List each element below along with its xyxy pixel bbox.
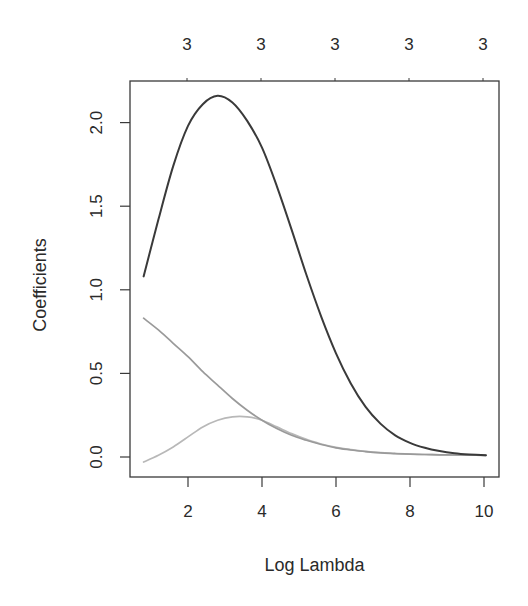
x-tick-label: 4 (257, 502, 266, 521)
x-axis-title: Log Lambda (264, 555, 365, 575)
y-axis-title: Coefficients (30, 238, 50, 332)
x-tick-label: 2 (183, 502, 192, 521)
top-tick-label: 3 (330, 35, 339, 54)
top-tick-label: 3 (182, 35, 191, 54)
top-tick-label: 3 (404, 35, 413, 54)
y-tick-label: 0.0 (87, 445, 106, 469)
coefficient-path-chart: 33333 246810 0.00.51.01.52.0 Log Lambda … (0, 0, 528, 606)
x-tick-label: 10 (475, 502, 494, 521)
y-tick-label: 1.0 (87, 278, 106, 302)
x-tick-label: 8 (405, 502, 414, 521)
y-tick-label: 1.5 (87, 194, 106, 218)
y-tick-label: 0.5 (87, 362, 106, 386)
y-tick-label: 2.0 (87, 111, 106, 135)
x-tick-label: 6 (331, 502, 340, 521)
top-tick-label: 3 (478, 35, 487, 54)
top-tick-label: 3 (256, 35, 265, 54)
